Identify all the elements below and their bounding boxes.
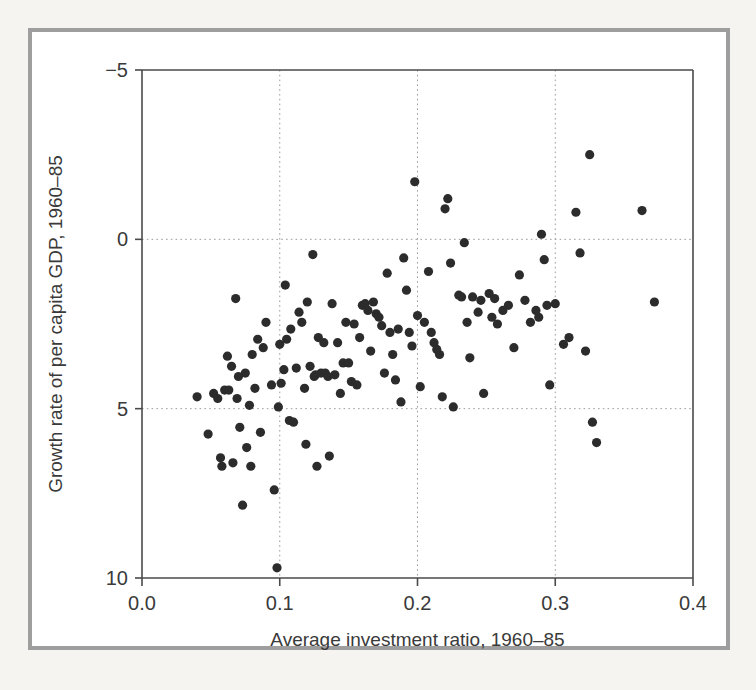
data-point [413,311,422,320]
data-point [217,462,226,471]
data-point [377,321,386,330]
data-point [449,402,458,411]
data-point [468,292,477,301]
x-tick-label: 0.3 [541,592,569,614]
data-point [588,418,597,427]
y-tick-label: 10 [106,567,128,589]
data-point [493,319,502,328]
data-point [592,438,601,447]
data-point [388,350,397,359]
data-point [551,299,560,308]
x-tick-label: 0.0 [128,592,156,614]
data-point [274,402,283,411]
data-point [256,428,265,437]
data-point [443,194,452,203]
data-point [637,206,646,215]
y-tick-label: 0 [117,228,128,250]
data-point [261,318,270,327]
data-point [300,384,309,393]
data-point [235,423,244,432]
data-point [336,389,345,398]
data-point [460,238,469,247]
data-point [520,296,529,305]
data-point [325,451,334,460]
data-point [286,324,295,333]
data-point [366,346,375,355]
data-point [333,338,342,347]
data-point [228,458,237,467]
data-point [272,563,281,572]
data-point [281,280,290,289]
data-point [394,324,403,333]
data-point [246,462,255,471]
data-point [385,328,394,337]
data-point [374,313,383,322]
data-point [292,363,301,372]
data-point [312,462,321,471]
data-point [231,294,240,303]
data-point [410,177,419,186]
data-point [238,501,247,510]
data-point [282,335,291,344]
figure-root: 1050−50.00.10.20.30.4 Average investment… [0,0,756,690]
tick-marks [135,70,693,586]
data-point [248,350,257,359]
data-point [204,429,213,438]
data-point [405,328,414,337]
data-point [303,297,312,306]
x-axis-title: Average investment ratio, 1960–85 [270,629,564,650]
data-point [526,318,535,327]
data-point [564,333,573,342]
data-point [571,208,580,217]
data-point [420,318,429,327]
data-point [465,353,474,362]
data-point [224,385,233,394]
data-point [328,299,337,308]
data-point [297,318,306,327]
data-point [294,308,303,317]
data-point [476,296,485,305]
data-point [438,392,447,401]
y-axis-title: Growth rate of per capita GDP, 1960–85 [45,155,66,493]
data-point [402,286,411,295]
data-point [427,328,436,337]
tick-labels: 1050−50.00.10.20.30.4 [105,59,707,614]
scatter-chart: 1050−50.00.10.20.30.4 Average investment… [0,0,756,690]
data-point [537,230,546,239]
data-point [242,443,251,452]
data-point [399,253,408,262]
data-point [515,270,524,279]
data-point [241,369,250,378]
data-point [369,297,378,306]
data-point [462,318,471,327]
data-point [363,306,372,315]
data-point [383,269,392,278]
data-point [355,333,364,342]
data-point [504,301,513,310]
data-point [407,341,416,350]
data-point [193,392,202,401]
y-tick-label: −5 [105,59,128,81]
data-point [250,384,259,393]
data-point [457,292,466,301]
data-point [396,397,405,406]
data-point [253,335,262,344]
data-point [301,440,310,449]
gridlines [142,70,693,578]
data-point [289,418,298,427]
data-point [380,369,389,378]
data-point [446,258,455,267]
data-point [279,365,288,374]
x-tick-label: 0.4 [679,592,707,614]
data-point [341,318,350,327]
data-point [435,350,444,359]
data-point [227,362,236,371]
data-point [650,297,659,306]
data-point [213,394,222,403]
data-point [319,338,328,347]
data-point [259,343,268,352]
data-point [474,308,483,317]
data-point [245,401,254,410]
data-points [193,150,660,572]
data-point [440,204,449,213]
